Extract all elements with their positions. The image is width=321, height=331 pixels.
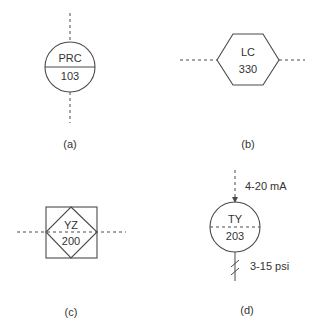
symbol-c: YZ 200 (c) [17,207,126,318]
tag-bottom: 103 [61,70,79,82]
symbol-a: PRC 103 (a) [45,13,95,150]
caption: (b) [241,138,254,150]
tag-top: PRC [58,52,81,64]
tag-bottom: 330 [239,63,257,75]
tag-bottom: 203 [226,230,244,242]
tag-top: YZ [64,219,78,231]
tag-top: TY [228,213,243,225]
output-signal-label: 3-15 psi [250,260,289,272]
instrument-symbols-diagram: PRC 103 (a) LC 330 (b) YZ 200 (c) 4-20 m… [0,0,321,331]
tag-bottom: 200 [62,235,80,247]
symbol-d: 4-20 mA TY 203 3-15 psi (d) [210,170,289,316]
symbol-b: LC 330 (b) [180,34,305,150]
hexagon-shape [217,34,279,85]
caption: (c) [65,306,78,318]
caption: (d) [240,304,253,316]
tag-top: LC [241,46,255,58]
input-signal-label: 4-20 mA [245,180,287,192]
caption: (a) [63,138,76,150]
